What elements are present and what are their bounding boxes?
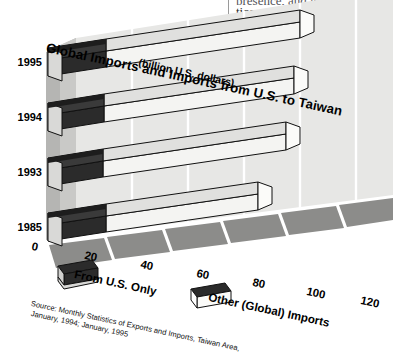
xtick-label-40: 40 — [139, 258, 154, 272]
chart-figure: presence, and it can be enfor tion on th… — [0, 0, 393, 362]
category-label-1995: 1995 — [2, 56, 42, 68]
category-label-1985: 1985 — [2, 221, 42, 233]
xtick-label-60: 60 — [195, 267, 210, 281]
xtick-label-20: 20 — [83, 249, 98, 263]
category-label-1994: 1994 — [2, 111, 42, 123]
xtick-label-80: 80 — [251, 276, 266, 290]
category-label-1993: 1993 — [2, 166, 42, 178]
